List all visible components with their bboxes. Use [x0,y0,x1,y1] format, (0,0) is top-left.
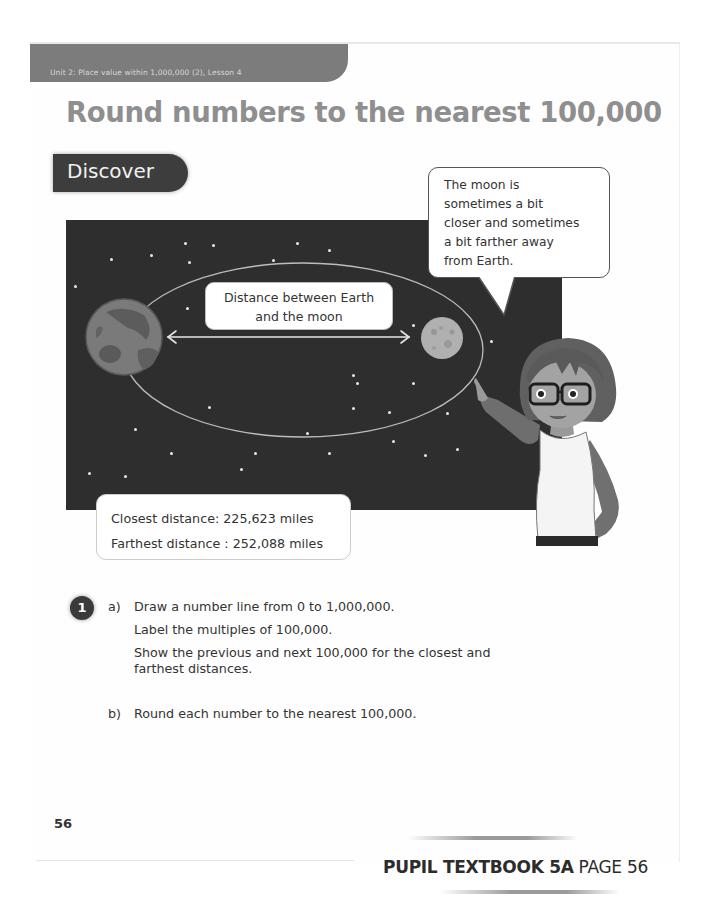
speech-bubble: The moon is sometimes a bit closer and s… [428,167,610,278]
farthest-distance: Farthest distance : 252,088 miles [111,531,350,556]
star [212,244,215,247]
star [272,259,275,262]
footer-decoration-bottom [440,890,620,894]
star [74,285,77,288]
bubble-line: sometimes a bit [444,195,609,214]
star [352,374,355,377]
star [124,475,127,478]
star [412,324,415,327]
star [328,249,331,252]
part-a-line: Show the previous and next 100,000 for t… [134,645,504,677]
star [134,428,137,431]
star [356,382,359,385]
star [150,254,153,257]
distance-label: Distance between Earth and the moon [205,282,393,330]
star [328,452,331,455]
part-b-line: Round each number to the nearest 100,000… [134,706,554,722]
star [208,406,211,409]
double-arrow-icon [168,331,409,343]
part-a-line: Label the multiples of 100,000. [134,622,554,638]
star [240,468,243,471]
star [446,412,449,415]
star [110,258,113,261]
page-number: 56 [54,816,72,831]
moon-icon [421,317,463,359]
closest-distance: Closest distance: 225,623 miles [111,506,350,531]
star [412,382,415,385]
star [424,454,427,457]
star [88,472,91,475]
book-title: PUPIL TEXTBOOK 5A [383,857,574,877]
star [306,432,309,435]
unit-banner: Unit 2: Place value within 1,000,000 (2)… [30,44,348,82]
bubble-line: The moon is [444,176,609,195]
unit-banner-text: Unit 2: Place value within 1,000,000 (2)… [50,68,242,77]
earth-icon [86,299,162,375]
book-page: PAGE 56 [579,857,648,877]
part-a-letter: a) [108,599,121,614]
book-reference: PUPIL TEXTBOOK 5APAGE 56 [383,857,648,877]
part-b-letter: b) [108,706,121,721]
star [184,242,187,245]
distance-label-line2: and the moon [206,307,392,326]
star [456,448,459,451]
bubble-line: a bit farther away [444,233,609,252]
bubble-line: closer and sometimes [444,214,609,233]
footer-divider [36,860,354,861]
discover-section-tab: Discover [53,154,188,192]
discover-tab-label: Discover [67,159,154,183]
lesson-title: Round numbers to the nearest 100,000 [66,96,662,128]
footer-decoration-top [408,836,578,840]
star [188,261,191,264]
star [254,452,257,455]
star [296,242,299,245]
star [352,407,355,410]
question-number-badge: 1 [70,596,94,620]
part-a-line: Draw a number line from 0 to 1,000,000. [134,599,554,615]
bubble-line: from Earth. [444,252,609,271]
distances-info-box: Closest distance: 225,623 miles Farthest… [96,494,351,560]
star [388,411,391,414]
star [186,307,189,310]
distance-label-line1: Distance between Earth [206,288,392,307]
star [170,452,173,455]
star [490,340,493,343]
star [392,440,395,443]
